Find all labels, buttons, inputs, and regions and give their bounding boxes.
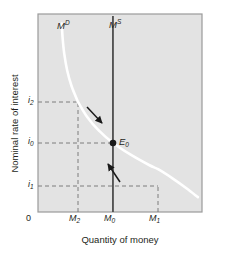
md-sup: D <box>65 19 70 26</box>
y-tick-sub-i0: 0 <box>30 140 34 147</box>
x-tick-sub-M2: 2 <box>77 217 81 224</box>
ms-sup: S <box>117 18 121 25</box>
y-tick-sub-i2: 2 <box>30 99 34 106</box>
y-tick-label-i1: i1 <box>28 179 34 190</box>
x-tick-sub-M1: 1 <box>157 217 161 224</box>
y-tick-label-i2: i2 <box>28 95 34 106</box>
md-base: M <box>57 20 65 31</box>
x-tick-label-M1: M1 <box>149 213 160 224</box>
ms-base: M <box>109 19 117 30</box>
x-tick-sub-M0: 0 <box>112 217 116 224</box>
y-tick-label-i0: i0 <box>28 136 34 147</box>
y-axis-title: Nominal rate of interest <box>9 34 20 214</box>
x-tick-base-M2: M <box>69 213 77 223</box>
x-axis-title: Quantity of money <box>38 234 202 245</box>
y-tick-sub-i1: 1 <box>30 183 34 190</box>
x-tick-label-M0: M0 <box>104 213 115 224</box>
x-tick-base-M0: M <box>104 213 112 223</box>
money-market-figure: Nominal rate of interest Quantity of mon… <box>0 0 228 256</box>
eq-sub: 0 <box>125 141 129 148</box>
equilibrium-label: E0 <box>119 136 129 148</box>
money-supply-curve-label: MS <box>109 18 121 30</box>
x-tick-label-M2: M2 <box>69 213 80 224</box>
x-tick-base-M1: M <box>149 213 157 223</box>
equilibrium-point-dot <box>110 140 117 147</box>
origin-label: 0 <box>26 213 31 223</box>
money-demand-curve-label: MD <box>57 19 70 31</box>
